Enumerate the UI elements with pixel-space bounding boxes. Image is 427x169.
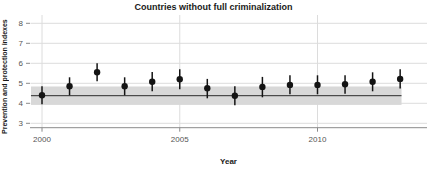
data-point-2004 — [149, 79, 155, 85]
y-tick-label-8: 8 — [19, 19, 24, 28]
x-tick-label-2010: 2010 — [309, 135, 327, 144]
data-point-2003 — [121, 83, 127, 89]
data-point-2009 — [287, 82, 293, 88]
chart: Countries without full criminalization P… — [0, 0, 427, 169]
data-point-2006 — [204, 85, 210, 91]
y-tick-label-6: 6 — [19, 59, 24, 68]
y-tick-label-4: 4 — [19, 99, 24, 108]
x-axis-label: Year — [30, 157, 427, 166]
data-point-2011 — [342, 81, 348, 87]
data-point-2001 — [66, 83, 72, 89]
x-tick-label-2005: 2005 — [171, 135, 189, 144]
data-point-2002 — [94, 69, 100, 75]
x-tick-label-2000: 2000 — [33, 135, 51, 144]
y-tick-label-7: 7 — [19, 39, 24, 48]
plot-area: 345678200020052010 — [0, 0, 427, 169]
data-point-2000 — [39, 92, 45, 98]
data-point-2010 — [314, 82, 320, 88]
data-point-2012 — [369, 79, 375, 85]
data-point-2013 — [397, 76, 403, 82]
data-point-2005 — [177, 76, 183, 82]
data-point-2008 — [259, 84, 265, 90]
y-tick-label-3: 3 — [19, 119, 24, 128]
data-point-2007 — [232, 93, 238, 99]
y-tick-label-5: 5 — [19, 79, 24, 88]
